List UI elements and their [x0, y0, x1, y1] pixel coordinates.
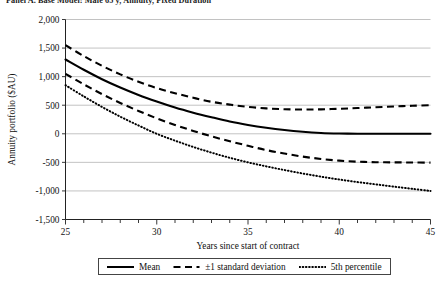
legend-entry: 5th percentile — [299, 262, 382, 272]
y-axis-tick-labels: -1,500-1,000-50005001,0001,5002,000 — [35, 15, 59, 225]
legend-entry: ±1 standard deviation — [173, 262, 286, 272]
chart-legend: Mean±1 standard deviation5th percentile — [98, 258, 391, 275]
y-axis-tickmarks — [62, 20, 66, 220]
y-tick-label: 1,000 — [39, 72, 60, 82]
x-tick-label: 25 — [61, 227, 71, 237]
series-line — [66, 60, 431, 134]
dashed-line-icon — [173, 262, 200, 272]
series-line — [66, 85, 431, 191]
y-tick-label: -500 — [42, 158, 59, 168]
y-tick-label: -1,000 — [35, 186, 59, 196]
legend-entry: Mean — [107, 262, 160, 272]
figure-container: Panel A. Base Model: Male 65 y, Annuity,… — [0, 0, 438, 288]
gridlines-group — [66, 20, 431, 220]
y-tick-label: 2,000 — [39, 15, 60, 25]
y-tick-label: 1,500 — [39, 43, 60, 53]
x-tick-label: 40 — [335, 227, 345, 237]
x-tick-label: 30 — [152, 227, 162, 237]
data-series-group — [66, 45, 431, 191]
y-tick-label: 500 — [46, 101, 60, 111]
y-tick-label: -1,500 — [35, 215, 59, 225]
y-tick-label: 0 — [55, 129, 60, 139]
x-tick-label: 35 — [243, 227, 253, 237]
chart-plot: -1,500-1,000-50005001,0001,5002,000 2530… — [0, 0, 438, 250]
x-axis-title: Years since start of contract — [197, 241, 300, 251]
x-axis-tickmarks — [66, 220, 431, 225]
legend-label: ±1 standard deviation — [205, 262, 286, 272]
x-tick-label: 45 — [426, 227, 436, 237]
y-axis-title: Annuity portfolio ($AU) — [7, 74, 18, 166]
series-line — [66, 45, 431, 109]
dotted-line-icon — [299, 262, 326, 272]
x-axis-tick-labels: 2530354045 — [61, 227, 436, 237]
solid-line-icon — [107, 262, 134, 272]
legend-label: Mean — [139, 262, 160, 272]
legend-label: 5th percentile — [331, 262, 382, 272]
